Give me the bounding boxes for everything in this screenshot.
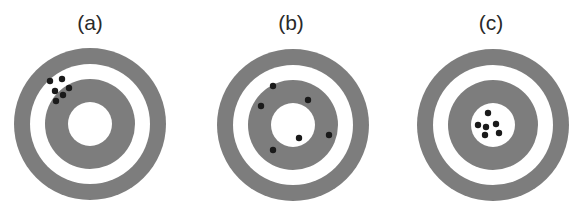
shot-dot — [482, 132, 488, 138]
shot-dot — [270, 147, 276, 153]
shot-dot — [496, 130, 502, 136]
shot-dot — [66, 85, 72, 91]
shot-dot — [296, 135, 302, 141]
shot-dot — [53, 98, 59, 104]
shot-dot — [475, 122, 481, 128]
shot-dot — [270, 83, 276, 89]
shot-dot — [258, 103, 264, 109]
shot-dot — [483, 124, 489, 130]
figure: (a) (b) (c) — [0, 0, 582, 211]
shot-dot — [59, 76, 65, 82]
target-c — [417, 49, 569, 201]
shot-dot — [305, 97, 311, 103]
label-b: (b) — [266, 11, 316, 35]
bullseye — [68, 102, 112, 146]
shot-dot — [493, 121, 499, 127]
shot-dot — [60, 92, 66, 98]
shot-dot — [326, 132, 332, 138]
bullseye — [271, 103, 315, 147]
target-b — [217, 49, 369, 201]
shot-dot — [485, 110, 491, 116]
label-a: (a) — [65, 11, 115, 35]
target-a — [14, 48, 166, 200]
label-c: (c) — [466, 11, 516, 35]
shot-dot — [47, 78, 53, 84]
shot-dot — [52, 88, 58, 94]
